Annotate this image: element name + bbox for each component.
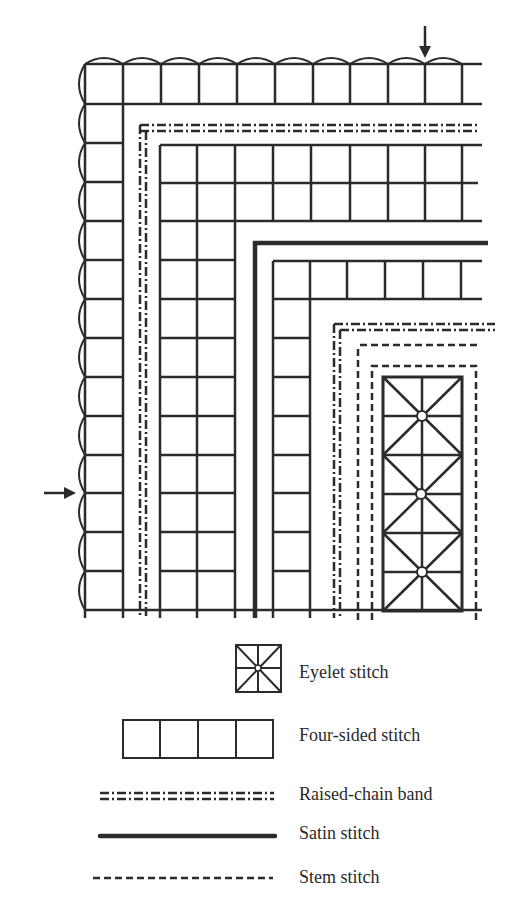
legend-eyelet-icon (236, 645, 281, 692)
legend-four-sided-icon (123, 720, 273, 758)
legend-label-eyelet: Eyelet stitch (299, 663, 388, 681)
middle-four-sided-band (160, 145, 482, 618)
legend-raised-chain-icon (100, 793, 274, 799)
legend-label-four-sided: Four-sided stitch (299, 726, 420, 744)
inner-four-sided-band (273, 261, 482, 618)
legend-label-stem: Stem stitch (299, 868, 380, 886)
legend-label-raised-chain: Raised-chain band (299, 785, 432, 803)
left-arrow-icon (44, 487, 76, 499)
top-arrow-icon (419, 26, 431, 58)
legend-label-satin: Satin stitch (299, 824, 380, 842)
eyelet-block (383, 377, 462, 611)
stem-stitch-outer (358, 345, 478, 620)
stitch-corner-diagram (0, 0, 527, 923)
